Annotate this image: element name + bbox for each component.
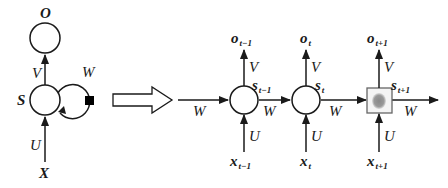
u-label-t: U	[311, 128, 323, 144]
state-label-t-plus-1: st+1	[390, 77, 410, 95]
input-t: xt	[299, 153, 312, 171]
w-label-2: W	[329, 103, 343, 119]
output-label: O	[40, 5, 51, 21]
state-node	[30, 85, 60, 115]
output-t-minus-1: ot−1	[231, 30, 252, 48]
input-t-minus-1: xt−1	[229, 153, 251, 171]
output-node	[30, 23, 60, 53]
loop-arrowhead-icon	[58, 106, 66, 114]
rnn-diagram: O V W S U X ot−1 V st−1 U xt−1	[0, 0, 448, 188]
w-label-in: W	[193, 103, 207, 119]
input-label: X	[38, 165, 50, 181]
unfold-arrow-icon	[113, 87, 172, 113]
w-weight-label: W	[82, 64, 96, 80]
state-label-t: st	[314, 77, 325, 95]
u-label-t-plus-1: U	[384, 128, 396, 144]
folded-rnn: O V W S U X	[17, 5, 96, 181]
w-label-out: W	[404, 103, 418, 119]
v-label-t-plus-1: V	[384, 59, 395, 75]
input-t-plus-1: xt+1	[366, 153, 388, 171]
blurred-node-icon	[372, 93, 386, 109]
delay-square-icon	[85, 96, 94, 105]
v-label-t: V	[311, 59, 322, 75]
state-label: S	[17, 92, 25, 108]
output-t-plus-1: ot+1	[367, 30, 388, 48]
unfolded-rnn: ot−1 V st−1 U xt−1 W W ot V st U xt W ot…	[178, 30, 438, 171]
recurrent-loop	[58, 85, 90, 119]
u-label-t-minus-1: U	[249, 128, 261, 144]
output-t: ot	[300, 30, 312, 48]
w-label-1: W	[263, 103, 277, 119]
v-weight-label: V	[32, 65, 43, 81]
u-weight-label: U	[30, 137, 42, 153]
state-label-t-minus-1: st−1	[251, 77, 271, 95]
v-label-t-minus-1: V	[249, 59, 260, 75]
